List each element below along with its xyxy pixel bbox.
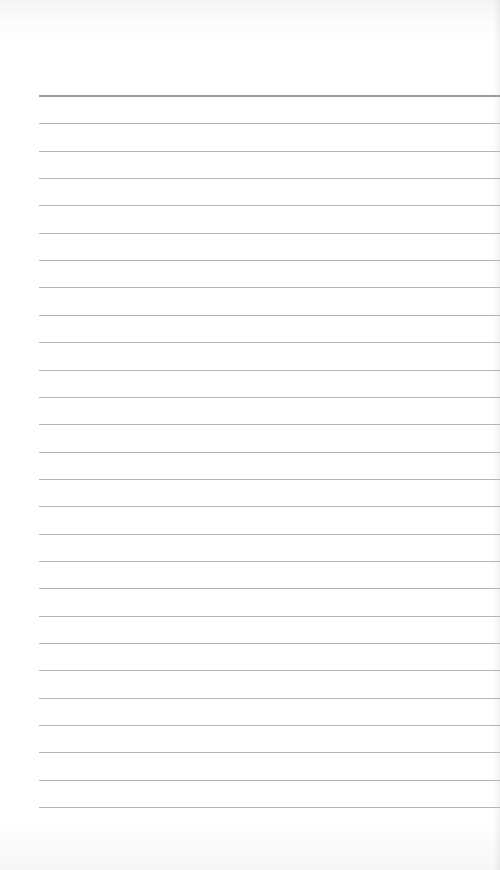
- ruled-line: [39, 178, 500, 179]
- notepad-page: [0, 0, 500, 870]
- ruled-line: [39, 752, 500, 753]
- ruled-line: [39, 698, 500, 699]
- ruled-line: [39, 233, 500, 234]
- ruled-line: [39, 479, 500, 480]
- ruled-line: [39, 205, 500, 206]
- ruled-line: [39, 260, 500, 261]
- ruled-line: [39, 342, 500, 343]
- ruled-line: [39, 123, 500, 124]
- ruled-line: [39, 452, 500, 453]
- ruled-line: [39, 725, 500, 726]
- ruled-line: [39, 315, 500, 316]
- ruled-line: [39, 561, 500, 562]
- ruled-line: [39, 670, 500, 671]
- ruled-line: [39, 151, 500, 152]
- ruled-line: [39, 287, 500, 288]
- ruled-line: [39, 397, 500, 398]
- page-edge-shadow: [494, 0, 500, 870]
- ruled-line: [39, 588, 500, 589]
- ruled-line: [39, 370, 500, 371]
- ruled-line: [39, 424, 500, 425]
- ruled-line: [39, 643, 500, 644]
- ruled-line: [39, 506, 500, 507]
- ruled-line: [39, 534, 500, 535]
- ruled-line: [39, 807, 500, 808]
- ruled-line: [39, 780, 500, 781]
- header-rule-line: [39, 95, 500, 97]
- ruled-line: [39, 616, 500, 617]
